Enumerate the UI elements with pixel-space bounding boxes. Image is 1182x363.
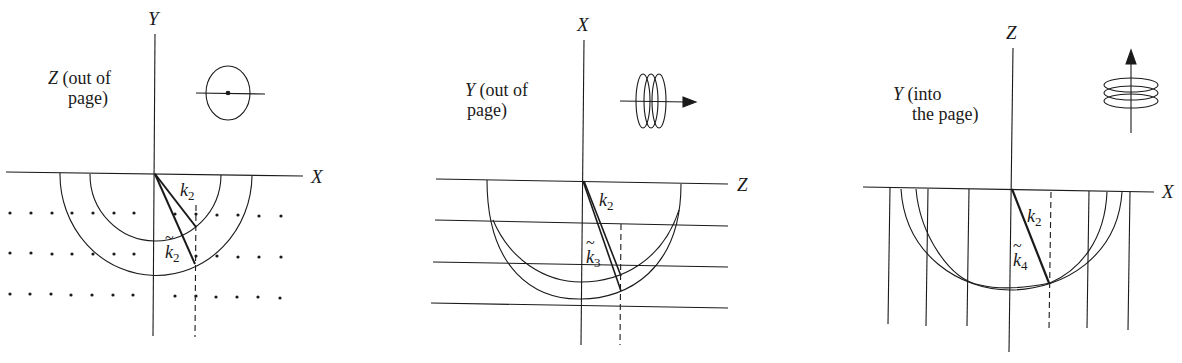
z-axis-vertical [1009, 48, 1013, 352]
panel-b-drawing [400, 0, 780, 363]
panel-c: Z X Y (into the page) k2 k4 [820, 0, 1182, 363]
note-axis: Z [48, 68, 58, 88]
out-of-page-note: Y (out of page) [465, 80, 528, 120]
horizontal-axis-label: X [1162, 181, 1174, 203]
vertical-line [967, 189, 969, 326]
single-disc-end-on-icon [196, 66, 265, 120]
panel-c-drawing [820, 0, 1182, 363]
dashed-projection [620, 224, 621, 345]
horizontal-line [433, 262, 728, 267]
dot-grid [8, 211, 282, 299]
k-tilde-vector-label: k4 [1013, 250, 1028, 274]
outer-semicircle [60, 173, 252, 276]
horizontal-axis-label: Z [737, 174, 748, 196]
horizontal-line [435, 220, 728, 226]
z-axis [436, 179, 728, 184]
vertical-line [1128, 192, 1130, 330]
horizontal-line [431, 303, 728, 308]
out-of-page-note: Z (out of page) [48, 68, 111, 108]
horizontal-axis-label: X [311, 166, 323, 188]
outer-semi-ellipse [487, 180, 681, 299]
panel-b: X Z Y (out of page) k2 k3 [400, 0, 780, 363]
inner-semicircle [90, 174, 221, 241]
stacked-discs-horizontal-arrow-icon [620, 74, 696, 128]
k-vector-label: k2 [599, 190, 614, 214]
vertical-line [1087, 191, 1089, 328]
dashed-projection [1049, 192, 1051, 330]
inner-semicircle [916, 189, 1107, 288]
x-axis [863, 187, 1154, 192]
k-tilde-vector-label: k2 [165, 242, 180, 266]
panel-a-drawing [0, 0, 320, 363]
stacked-discs-vertical-arrow-icon [1104, 50, 1158, 133]
vertical-axis-label: Y [148, 8, 159, 30]
vertical-axis-label: Z [1006, 22, 1017, 44]
into-page-note: Y (into the page) [893, 84, 978, 124]
k-vector-label: k2 [180, 180, 195, 204]
vertical-axis-label: X [577, 14, 589, 36]
vertical-line [926, 189, 928, 326]
k-vector-label: k2 [1027, 206, 1042, 230]
note-axis: Y [893, 84, 903, 104]
panel-a: Y X Z (out of page) k2 k2 [0, 0, 320, 363]
y-axis [153, 34, 155, 336]
vertical-line [888, 188, 890, 324]
k-tilde-vector-label: k3 [586, 247, 601, 271]
note-axis: Y [465, 80, 475, 100]
